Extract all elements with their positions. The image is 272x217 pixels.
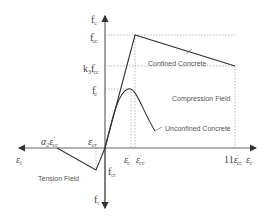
y-axis-top-label: fc [91,14,97,26]
compression-field-label: Compression Field [172,95,230,103]
e11-label: 11ε'cc [224,154,242,166]
stress-strain-diagram: fc ft εc εt f'cc k3f'cc f'c fct εcr ε'c … [0,0,272,217]
confined-concrete-label: Confined Concrete [148,60,206,67]
x-axis-right-label: εc [246,154,253,166]
unconfined-concrete-label: Unconfined Concrete [165,125,231,132]
tension-field-label: Tension Field [38,175,79,182]
fc-label: f'c [92,85,97,97]
tension-curve [57,148,105,170]
y-axis-bottom-label: ft [94,194,99,206]
unconfined-concrete-curve [105,89,155,148]
fcc-label: f'cc [90,32,98,44]
alpha-label: α2ε'cc [41,136,58,148]
fct-label: fct [108,166,116,178]
k3fcc-label: k3f'cc [83,63,99,75]
x-axis-left-label: εt [16,154,22,166]
ecr-label: εcr [88,136,98,148]
ecc-label: ε'cc [136,154,145,166]
unconfined-leader [155,127,162,131]
ec-label: ε'c [124,154,130,166]
